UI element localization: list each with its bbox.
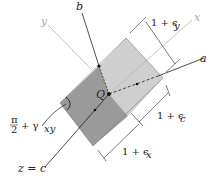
b-axis — [82, 13, 99, 66]
svg-text:2: 2 — [11, 124, 17, 135]
c-axis-label: z = c — [17, 162, 46, 175]
a-dot — [136, 83, 139, 86]
b-axis-label: b — [76, 0, 83, 13]
a-axis-label: a — [200, 52, 207, 65]
dim-top-sub: y — [173, 20, 180, 31]
dim-bottom-ext — [98, 150, 106, 161]
c-dot — [94, 109, 97, 112]
dim-bottom-sub: x — [146, 149, 152, 160]
x-axis-label: x — [194, 11, 201, 24]
y-axis-label: y — [40, 15, 48, 28]
point-q-label: Q — [96, 88, 105, 101]
b-edge-dot — [97, 64, 100, 67]
dim-right-sub: c — [180, 113, 186, 124]
angle-label: π 2 + γ xy — [10, 114, 56, 135]
svg-text:xy: xy — [44, 123, 56, 134]
dim-top-ext1 — [130, 17, 146, 33]
point-q — [107, 92, 111, 96]
dim-top-line — [146, 22, 175, 64]
svg-text:+ γ: + γ — [21, 120, 39, 131]
a-axis — [158, 58, 204, 76]
y-axis — [48, 25, 92, 70]
strain-element-diagram: Q y b x a z = c π 2 + γ xy 1 + ϵ y 1 + ϵ… — [0, 0, 209, 181]
